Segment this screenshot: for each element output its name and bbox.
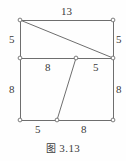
segment-slanted-cut <box>57 58 76 120</box>
label-middle-right: 5 <box>93 62 99 73</box>
segment-diagonal-cut <box>20 20 113 58</box>
vertex-mid-divider-point <box>74 56 78 60</box>
figure-container: 13 5 8 5 8 8 5 5 8 图 3.13 <box>0 0 126 161</box>
label-bottom-right: 8 <box>81 124 87 135</box>
label-top-edge: 13 <box>61 6 72 17</box>
vertex-top-right <box>111 18 115 22</box>
vertex-mid-right <box>111 56 115 60</box>
label-left-lower: 8 <box>9 84 15 95</box>
figure-caption: 图 3.13 <box>0 140 126 155</box>
label-left-upper: 5 <box>9 34 15 45</box>
caption-symbol: 图 <box>46 143 56 154</box>
label-right-lower: 8 <box>116 84 122 95</box>
geometry-diagram <box>0 0 126 140</box>
vertex-bottom-right <box>111 118 115 122</box>
label-middle-left: 8 <box>45 62 51 73</box>
vertex-bottom-left <box>18 118 22 122</box>
vertex-bottom-divider-point <box>55 118 59 122</box>
caption-number: 3.13 <box>59 142 80 154</box>
vertex-top-left <box>18 18 22 22</box>
label-right-upper: 5 <box>116 34 122 45</box>
label-bottom-left: 5 <box>35 124 41 135</box>
vertex-mid-left <box>18 56 22 60</box>
